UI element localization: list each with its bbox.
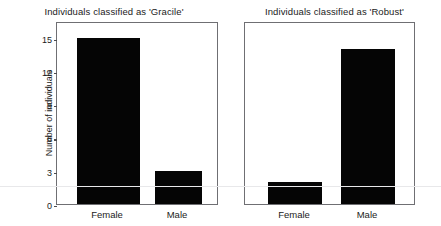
bar-gracile-male	[155, 171, 202, 204]
y-tick-0: 0	[47, 201, 57, 211]
y-tick-3: 3	[47, 168, 57, 178]
y-tick-12: 12	[42, 68, 57, 78]
x-tick-male-gracile: Male	[167, 209, 188, 220]
plot-area-gracile: 0 3 6 9 12 15	[56, 22, 218, 205]
panel-title-robust: Individuals classified as 'Robust'	[228, 6, 441, 17]
y-tick-6: 6	[47, 134, 57, 144]
panel-robust: Individuals classified as 'Robust' Femal…	[228, 0, 441, 226]
scan-artifact-rule	[0, 186, 441, 187]
panel-title-gracile: Individuals classified as 'Gracile'	[0, 6, 228, 17]
plot-area-robust	[244, 22, 415, 205]
x-tick-female-robust: Female	[278, 209, 310, 220]
x-tick-female-gracile: Female	[91, 209, 123, 220]
figure-root: Individuals classified as 'Gracile' Numb…	[0, 0, 441, 226]
bar-gracile-female	[77, 38, 140, 205]
bar-robust-male	[341, 49, 395, 204]
y-tick-9: 9	[47, 101, 57, 111]
panel-gracile: Individuals classified as 'Gracile' Numb…	[0, 0, 228, 226]
y-tick-15: 15	[42, 35, 57, 45]
x-tick-male-robust: Male	[357, 209, 378, 220]
